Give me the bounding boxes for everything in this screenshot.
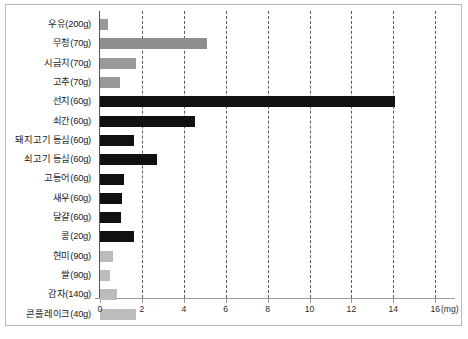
- value-tick-label: 2: [140, 304, 145, 314]
- bar-chart-figure: 우유(200g)무청(70g)시금치(70g)고추(70g)선지(60g)쇠간(…: [5, 4, 462, 326]
- value-tick-label: 6: [223, 304, 228, 314]
- bar: [100, 309, 136, 320]
- bar: [100, 135, 134, 146]
- bar: [100, 212, 121, 223]
- axis-tick: [268, 299, 269, 303]
- gridline: [268, 11, 269, 298]
- axis-tick: [310, 299, 311, 303]
- category-label: 선지(60g): [53, 92, 91, 111]
- axis-tick: [142, 299, 143, 303]
- gridline: [393, 11, 394, 298]
- axis-tick: [351, 299, 352, 303]
- category-label: 달걀(60g): [53, 208, 91, 227]
- category-label: 쌀(90g): [61, 266, 91, 285]
- category-label: 우유(200g): [48, 15, 91, 34]
- bar: [100, 77, 120, 88]
- value-tick-label: 12: [347, 304, 357, 314]
- bar: [100, 116, 195, 127]
- value-tick-label: 10: [305, 304, 315, 314]
- value-axis-line: [95, 298, 455, 299]
- axis-tick: [393, 299, 394, 303]
- category-label: 쇠간(60g): [53, 112, 91, 131]
- gridline: [351, 11, 352, 298]
- axis-tick: [226, 299, 227, 303]
- bar: [100, 289, 117, 300]
- category-label: 시금치(70g): [44, 54, 91, 73]
- category-label: 쇠고기 등심(60g): [24, 150, 91, 169]
- category-label: 무청(70g): [53, 34, 91, 53]
- bar: [100, 174, 124, 185]
- category-label: 현미(90g): [53, 247, 91, 266]
- category-label: 고추(70g): [53, 73, 91, 92]
- category-label: 돼지고기 등심(60g): [15, 131, 91, 150]
- category-label: 감자(140g): [48, 285, 91, 304]
- gridline: [226, 11, 227, 298]
- category-label: 고등어(60g): [44, 169, 91, 188]
- axis-tick: [184, 299, 185, 303]
- bar: [100, 231, 134, 242]
- bar: [100, 38, 207, 49]
- plot-area: 0246810121416 (mg): [95, 11, 455, 301]
- value-axis-unit-label: (mg): [441, 304, 459, 314]
- bar: [100, 270, 110, 281]
- bar: [100, 193, 122, 204]
- gridline: [310, 11, 311, 298]
- value-tick-label: 8: [265, 304, 270, 314]
- bar: [100, 251, 113, 262]
- bar: [100, 19, 108, 30]
- category-label: 새우(60g): [53, 189, 91, 208]
- bar: [100, 58, 136, 69]
- bar: [100, 154, 157, 165]
- axis-tick: [435, 299, 436, 303]
- value-tick-label: 14: [389, 304, 399, 314]
- value-tick-label: 16: [430, 304, 440, 314]
- bar: [100, 96, 395, 107]
- value-tick-label: 4: [181, 304, 186, 314]
- gridline: [184, 11, 185, 298]
- category-axis-labels: 우유(200g)무청(70g)시금치(70g)고추(70g)선지(60g)쇠간(…: [6, 11, 94, 301]
- category-label: 콩(20g): [61, 227, 91, 246]
- value-tick-label: 0: [98, 304, 103, 314]
- gridline: [435, 11, 436, 298]
- category-label: 콘플레이크(40g): [26, 305, 91, 324]
